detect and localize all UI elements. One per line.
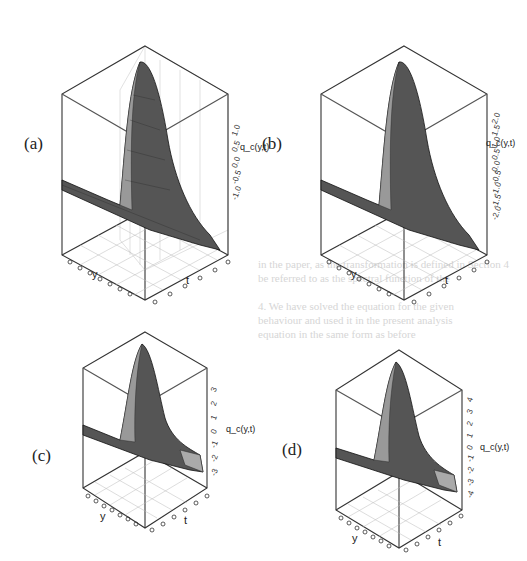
surface-plot-a	[0, 30, 260, 310]
y-axis-label: y	[352, 532, 358, 544]
panel-label: (b)	[262, 134, 282, 154]
y-axis-label: y	[100, 510, 106, 522]
z-axis-label: q_c(y,t)	[480, 442, 509, 452]
panel-d: (d) q_c(y,t) y t 4 3 2 1 0 -1 -2 -3 -4	[262, 300, 522, 561]
t-axis-label: t	[186, 274, 189, 286]
panel-label: (c)	[32, 446, 51, 466]
panel-c: (c) q_c(y,t) y t 3 2 1 0 -1 -2 -3	[0, 300, 260, 561]
surface-plot-b	[262, 30, 522, 310]
y-axis-label: y	[92, 268, 98, 280]
panel-label: (d)	[282, 440, 302, 460]
panel-b: (b) q_c(y,t) y t 2.0 1.5 1.0 0.5 0.0 -0.…	[262, 30, 522, 310]
t-axis-label: t	[445, 274, 448, 286]
panel-a: (a) q_c(y,t) y t 1.0 0.5 0.0 -0.5 -1.0	[0, 30, 260, 310]
t-axis-label: t	[438, 536, 441, 548]
surface-plot-d	[262, 300, 522, 561]
z-axis-label: q_c(y,t)	[226, 424, 255, 434]
panel-label: (a)	[24, 134, 43, 154]
t-axis-label: t	[184, 514, 187, 526]
surface-plot-c	[0, 300, 260, 561]
y-axis-label: y	[351, 268, 357, 280]
